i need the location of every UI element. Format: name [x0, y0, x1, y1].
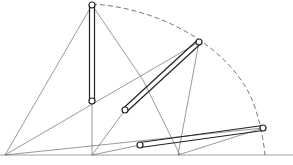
- construction-lines: [5, 5, 263, 155]
- rod-rotation-diagram: [0, 0, 293, 165]
- rod-horizontal: [137, 125, 266, 148]
- rod-end-top: [260, 125, 266, 131]
- rod-end-top: [196, 39, 202, 45]
- rod-end-bottom: [137, 142, 143, 148]
- rod-end-bottom: [89, 98, 95, 104]
- dashed-arc-path: [92, 4, 265, 155]
- rod-end-bottom: [122, 107, 128, 113]
- rod-vertical: [89, 2, 95, 104]
- rod-diagonal: [122, 39, 202, 113]
- rod-end-top: [89, 2, 95, 8]
